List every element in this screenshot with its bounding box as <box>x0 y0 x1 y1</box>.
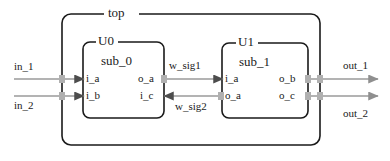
wire-in-1 <box>14 75 84 83</box>
u1-port-o-b: o_b <box>279 72 296 84</box>
u1-port-o-a: o_a <box>225 89 241 101</box>
signal-label-w-sig2: w_sig2 <box>175 100 207 112</box>
u1-port-i-a: i_a <box>225 72 238 84</box>
wire-out-1 <box>305 75 378 83</box>
diagram-graphics <box>0 0 390 161</box>
wire-w-sig1 <box>161 75 223 83</box>
u0-port-i-a: i_a <box>86 72 99 84</box>
input-label-in-1: in_1 <box>14 60 34 72</box>
u0-port-i-c: i_c <box>140 89 153 101</box>
u1-instance-label: U1 <box>238 34 254 50</box>
u0-port-i-b: i_b <box>86 89 100 101</box>
u1-module-label: sub_1 <box>239 54 270 70</box>
wire-w-sig2 <box>164 92 224 100</box>
u0-port-o-a: o_a <box>138 72 154 84</box>
top-block-label: top <box>108 5 125 21</box>
input-label-in-2: in_2 <box>14 99 34 111</box>
u0-instance-label: U0 <box>98 33 114 49</box>
u0-module-label: sub_0 <box>101 53 132 69</box>
output-label-out-2: out_2 <box>343 107 368 119</box>
signal-label-w-sig1: w_sig1 <box>169 59 201 71</box>
output-label-out-1: out_1 <box>343 59 368 71</box>
u1-port-o-c: o_c <box>279 89 295 101</box>
wire-out-2 <box>305 92 378 100</box>
diagram-canvas: top U0 sub_0 i_a i_b o_a i_c U1 sub_1 i_… <box>0 0 390 161</box>
